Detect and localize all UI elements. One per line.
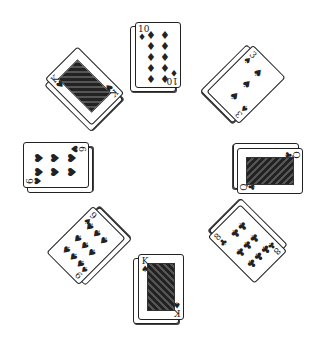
hearts-icon: ♥ <box>67 153 78 163</box>
card-pile-left[interactable]: 6♥6♥♥♥♥♥♥♥ <box>23 140 91 188</box>
card-K-of-spades[interactable]: K♠K♠ <box>138 254 184 320</box>
card-6-of-hearts[interactable]: 6♥6♥♥♥♥♥♥♥ <box>23 142 89 188</box>
hearts-icon: ♥ <box>50 153 61 163</box>
card-pile-bottom[interactable]: K♠K♠ <box>138 254 186 322</box>
hearts-icon: ♥ <box>34 153 45 163</box>
card-3-of-spades[interactable]: 3♠3♠♠♠♠ <box>206 45 285 124</box>
hearts-icon: ♥ <box>67 167 78 177</box>
spades-icon: ♠ <box>250 65 265 80</box>
card-8-of-clubs[interactable]: 8♣8♣♣♣♣♣♣♣♣♣ <box>208 204 287 283</box>
spades-icon: ♠ <box>227 89 242 104</box>
court-card-illustration <box>246 157 294 185</box>
card-table: 10♦10♦♦♦♦♦♦♦♦♦♦♦3♠3♠♠♠♠Q♣Q♣8♣8♣♣♣♣♣♣♣♣♣K… <box>0 0 330 346</box>
hearts-icon: ♥ <box>34 167 45 177</box>
card-pile-right[interactable]: Q♣Q♣ <box>235 148 303 196</box>
card-pile-top[interactable]: 10♦10♦♦♦♦♦♦♦♦♦♦♦ <box>135 22 183 90</box>
hearts-icon: ♥ <box>50 167 61 177</box>
diamonds-icon: ♦ <box>146 74 156 85</box>
card-10-of-diamonds[interactable]: 10♦10♦♦♦♦♦♦♦♦♦♦♦ <box>135 22 181 88</box>
card-Q-of-clubs[interactable]: Q♣Q♣ <box>237 148 303 194</box>
card-pips: ♦♦♦♦♦♦♦♦♦♦ <box>144 30 172 80</box>
court-card-illustration <box>147 263 175 311</box>
card-K-of-hearts[interactable]: K♥K♥ <box>45 46 124 125</box>
diamonds-icon: ♦ <box>160 74 170 85</box>
card-pile-bottom-right[interactable]: 8♣8♣♣♣♣♣♣♣♣♣ <box>205 203 287 285</box>
card-9-of-spades[interactable]: 9♠9♠♠♠♠♠♠♠♠♠♠ <box>46 206 125 285</box>
card-pile-bottom-left[interactable]: 9♠9♠♠♠♠♠♠♠♠♠♠ <box>45 203 127 285</box>
card-pile-top-right[interactable]: 3♠3♠♠♠♠ <box>205 45 287 127</box>
spades-icon: ♠ <box>239 77 254 92</box>
card-pips: ♥♥♥♥♥♥ <box>31 151 81 179</box>
card-pile-top-left[interactable]: K♥K♥ <box>45 45 127 127</box>
